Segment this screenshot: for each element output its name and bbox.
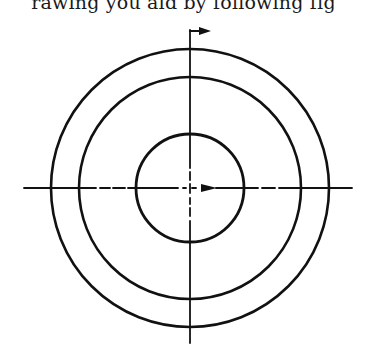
concentric-circles-diagram [0,0,367,361]
center-arrowhead-icon [201,184,217,192]
top-arrowhead-icon [199,27,211,35]
